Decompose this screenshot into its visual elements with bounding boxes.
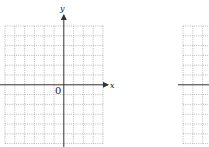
origin-label: 0: [55, 85, 61, 96]
y-axis-label: y: [59, 4, 65, 13]
x-axis-label: x: [110, 81, 115, 90]
left-grid: y x 0: [0, 4, 115, 147]
coordinate-grid-figure: y x 0: [0, 0, 209, 147]
right-grid: [178, 26, 209, 144]
